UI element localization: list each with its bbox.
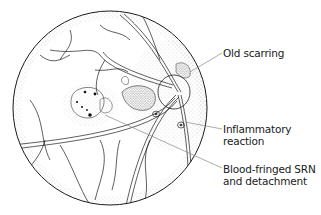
label-text: Old scarring bbox=[223, 47, 284, 59]
label-inflammatory-reaction: Inflammatory reaction bbox=[223, 123, 291, 147]
label-text: reaction bbox=[223, 135, 291, 147]
label-blood-fringed-srn: Blood-fringed SRN and detachment bbox=[223, 163, 316, 187]
label-text: and detachment bbox=[223, 175, 316, 187]
label-text: Inflammatory bbox=[223, 123, 291, 135]
label-old-scarring: Old scarring bbox=[223, 47, 284, 59]
fundus-diagram: Old scarring Inflammatory reaction Blood… bbox=[0, 0, 321, 215]
label-text: Blood-fringed SRN bbox=[223, 163, 316, 175]
